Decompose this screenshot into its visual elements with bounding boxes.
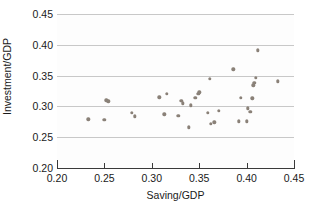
data-point xyxy=(187,126,190,129)
data-point xyxy=(251,97,254,100)
x-tick-mark xyxy=(57,160,58,169)
x-tick-label: 0.35 xyxy=(179,172,219,184)
x-tick-mark xyxy=(247,163,248,169)
data-point xyxy=(133,115,136,118)
data-point xyxy=(252,81,255,84)
y-tick-label: 0.30 xyxy=(3,100,53,112)
x-tick-mark xyxy=(104,163,105,169)
data-point xyxy=(213,121,216,124)
data-point xyxy=(217,109,220,112)
data-point xyxy=(256,49,259,52)
scatter-plot-figure: Investment/GDP 0.200.250.300.350.400.45 … xyxy=(0,0,318,211)
x-axis-tick-labels: 0.200.250.300.350.400.45 xyxy=(0,172,318,186)
x-tick-mark xyxy=(152,163,153,169)
x-tick-label: 0.25 xyxy=(84,172,124,184)
gridline-horizontal xyxy=(57,45,294,46)
plot-area xyxy=(57,14,294,168)
data-point xyxy=(245,119,248,122)
x-tick-label: 0.45 xyxy=(274,172,314,184)
data-point xyxy=(249,110,252,113)
data-point xyxy=(206,111,209,114)
y-tick-label: 0.40 xyxy=(3,39,53,51)
y-tick-label: 0.35 xyxy=(3,70,53,82)
data-point xyxy=(239,96,242,99)
x-axis-spine xyxy=(57,168,294,169)
data-point xyxy=(237,119,240,122)
data-point xyxy=(181,102,184,105)
data-point xyxy=(197,91,200,94)
data-point xyxy=(194,96,197,99)
gridline-horizontal xyxy=(57,14,294,15)
data-point xyxy=(165,92,168,95)
gridline-horizontal xyxy=(57,76,294,77)
x-axis-title: Saving/GDP xyxy=(57,189,294,201)
data-point xyxy=(106,100,109,103)
data-point xyxy=(87,118,90,121)
data-point xyxy=(232,68,235,71)
data-point xyxy=(254,76,257,79)
y-tick-label: 0.25 xyxy=(3,131,53,143)
data-point xyxy=(208,77,211,80)
x-tick-label: 0.30 xyxy=(132,172,172,184)
gridline-horizontal xyxy=(57,137,294,138)
x-tick-label: 0.40 xyxy=(227,172,267,184)
data-point xyxy=(177,114,180,117)
x-tick-mark xyxy=(294,160,295,169)
data-point xyxy=(158,95,161,98)
gridline-horizontal xyxy=(57,106,294,107)
y-tick-label: 0.45 xyxy=(3,8,53,20)
data-point xyxy=(162,113,165,116)
data-point xyxy=(276,79,279,82)
x-tick-label: 0.20 xyxy=(37,172,77,184)
data-point xyxy=(103,118,106,121)
x-tick-mark xyxy=(199,163,200,169)
